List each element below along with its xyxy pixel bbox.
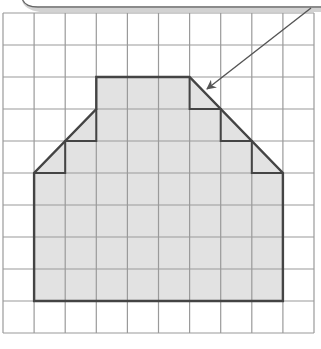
grid-diagram <box>0 0 321 349</box>
callout-bubble <box>22 0 321 10</box>
